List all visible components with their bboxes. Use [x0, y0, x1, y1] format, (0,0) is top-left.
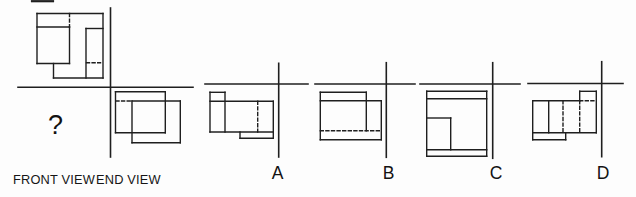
missing-front-view-marker: ? [48, 112, 63, 139]
option-b-axes [315, 63, 415, 158]
end-view-drawing [116, 92, 181, 143]
option-c-label: C [490, 164, 503, 183]
option-d-drawing [533, 91, 597, 139]
option-b-drawing [320, 92, 381, 139]
option-c-axes [420, 63, 520, 159]
main-axes [18, 8, 193, 157]
orthographic-projection-question: ? FRONT VIEW END VIEW A B C D [0, 0, 636, 197]
option-c-drawing [427, 91, 487, 156]
end-view-label: END VIEW [96, 172, 161, 187]
given-top-view-drawing [37, 14, 103, 79]
option-d-axes [528, 62, 623, 157]
option-a-drawing [210, 92, 273, 138]
option-b-label: B [383, 164, 395, 183]
front-view-label: FRONT VIEW [13, 172, 95, 187]
option-a-axes [205, 63, 308, 157]
option-d-label: D [597, 164, 610, 183]
projection-figure [0, 0, 636, 197]
option-a-label: A [272, 164, 284, 183]
